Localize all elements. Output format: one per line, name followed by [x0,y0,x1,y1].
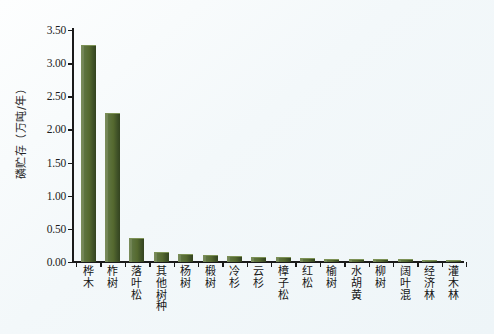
x-axis-tick-label: 柞树 [105,266,121,290]
x-axis-tick-label: 灌木林 [446,266,462,301]
bar [300,258,315,262]
x-axis-tick-mark [466,262,467,267]
bar [105,113,120,262]
y-axis-tick-label: 3.50 [47,24,66,36]
y-axis-tick-mark [68,30,72,31]
x-axis-tick-label: 桦木 [80,266,96,290]
bar [373,259,388,262]
bar-chart-figure: 磷贮存（万吨/年） 3.503.002.502.001.501.000.500.… [0,0,494,334]
x-axis-tick-label: 水胡黄 [348,266,364,301]
y-axis-tick-mark [68,129,72,130]
x-axis-tick-label: 椴树 [202,266,218,290]
y-axis-tick-label: 2.00 [47,123,66,135]
y-axis-tick-mark [68,262,72,263]
x-axis-tick-label: 阔叶混 [397,266,413,301]
y-axis-tick-mark [68,63,72,64]
bar [324,259,339,262]
bar [349,259,364,262]
bar [398,259,413,262]
bar [227,256,242,262]
bar [276,257,291,262]
bar [154,252,169,262]
x-axis-tick-label: 云杉 [251,266,267,290]
x-axis-tick-label: 柳树 [373,266,389,290]
bar [251,257,266,262]
bar [81,45,96,262]
x-axis-tick-label: 樟子松 [275,266,291,301]
bar [178,254,193,262]
bar [203,255,218,262]
x-axis-tick-labels: 桦木柞树落叶松其他树种杨树椴树冷杉云杉樟子松红松榆树水胡黄柳树阔叶混经济林灌木林 [72,266,462,334]
plot-area [72,30,462,262]
y-axis-tick-label: 0.00 [47,256,66,268]
y-axis-tick-mark [68,229,72,230]
y-axis-tick-label: 1.50 [47,157,66,169]
x-axis-tick-label: 其他树种 [153,266,169,313]
x-axis-tick-label: 落叶松 [129,266,145,301]
y-axis-title-text: 磷贮存（万吨/年） [12,83,28,179]
x-axis-tick-label: 杨树 [178,266,194,290]
y-axis-line [72,28,74,262]
y-axis-tick-mark [68,163,72,164]
y-axis-tick-label: 1.00 [47,190,66,202]
y-axis-tick-mark [68,96,72,97]
y-axis-tick-label: 0.50 [47,223,66,235]
bar [446,260,461,263]
y-axis-tick-mark [68,196,72,197]
x-axis-tick-label: 榆树 [324,266,340,290]
y-axis-tick-labels: 3.503.002.502.001.501.000.500.00 [28,24,72,268]
bar [129,238,144,262]
x-axis-tick-label: 红松 [300,266,316,290]
x-axis-tick-label: 冷杉 [226,266,242,290]
bar [422,260,437,263]
y-axis-tick-label: 3.00 [47,57,66,69]
y-axis-tick-label: 2.50 [47,90,66,102]
x-axis-tick-label: 经济林 [421,266,437,301]
